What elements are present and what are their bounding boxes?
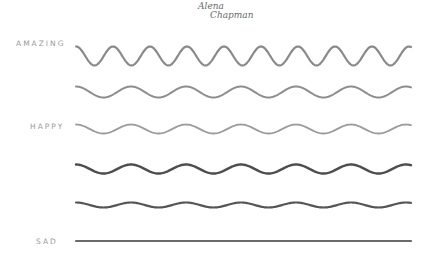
wave-level-5 [76, 203, 411, 208]
mood-waves-diagram [0, 0, 429, 273]
wave-happy [76, 125, 411, 134]
wave-amazing [76, 47, 411, 66]
wave-level-4 [76, 165, 411, 174]
wave-level-2 [76, 87, 411, 98]
